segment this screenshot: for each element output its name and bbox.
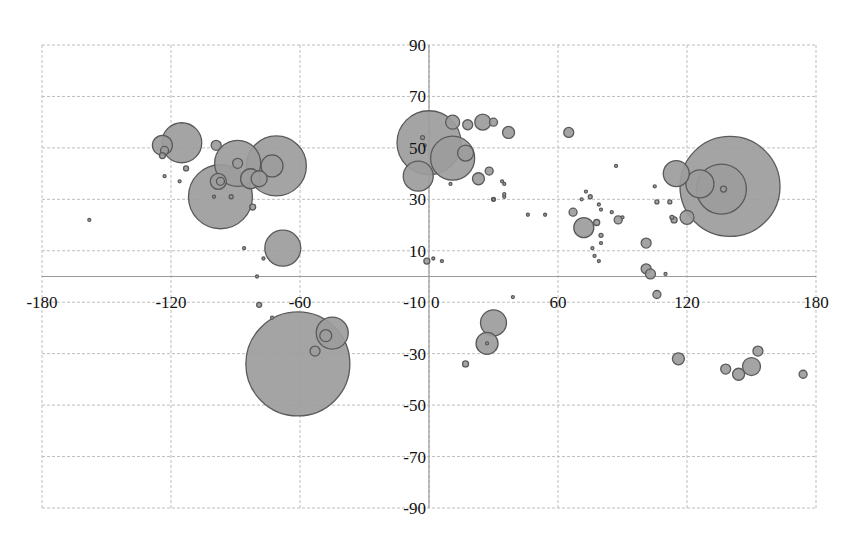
data-bubble xyxy=(663,161,689,187)
data-bubble xyxy=(486,342,489,345)
data-bubble xyxy=(597,203,600,206)
bubble-chart: 9070503010-10-30-50-70-90-180-120-600601… xyxy=(0,0,857,544)
data-bubble xyxy=(503,193,506,196)
data-bubble xyxy=(721,364,731,374)
data-bubble xyxy=(159,153,165,159)
data-bubble xyxy=(213,195,216,198)
data-bubble xyxy=(320,330,332,342)
data-bubble xyxy=(257,302,262,307)
data-bubble xyxy=(593,254,596,257)
data-bubble xyxy=(211,140,221,150)
data-bubble xyxy=(653,185,656,188)
data-bubble xyxy=(733,368,745,380)
data-bubble xyxy=(569,208,577,216)
data-bubble xyxy=(178,180,181,183)
data-bubble xyxy=(490,118,498,126)
data-bubble xyxy=(615,164,618,167)
data-bubble xyxy=(599,233,603,237)
data-bubble xyxy=(580,198,583,201)
data-bubble xyxy=(492,198,495,201)
data-bubble xyxy=(229,195,233,199)
data-bubble xyxy=(463,361,469,367)
y-tick-label: 50 xyxy=(409,139,426,158)
data-bubble xyxy=(481,310,507,336)
data-bubble xyxy=(564,127,574,137)
data-bubble xyxy=(753,346,763,356)
data-bubble xyxy=(686,170,714,198)
data-bubble xyxy=(432,257,435,260)
data-bubble xyxy=(449,182,452,185)
data-bubble xyxy=(501,180,504,183)
data-bubble xyxy=(216,177,224,185)
data-bubble xyxy=(721,186,727,192)
data-bubble xyxy=(256,275,259,278)
x-tick-label: 180 xyxy=(803,293,829,312)
y-tick-label: 30 xyxy=(409,190,426,209)
data-bubble xyxy=(458,145,474,161)
data-bubble xyxy=(265,230,301,266)
data-bubble xyxy=(670,215,674,219)
data-bubble xyxy=(621,216,624,219)
y-tick-label: -70 xyxy=(403,448,426,467)
x-tick-label: -180 xyxy=(26,293,57,312)
data-bubble xyxy=(743,358,761,376)
data-bubble xyxy=(594,219,600,225)
data-bubble xyxy=(310,346,320,356)
x-tick-label: -60 xyxy=(289,293,312,312)
data-bubble xyxy=(672,353,684,365)
data-bubble xyxy=(463,120,473,130)
data-bubble xyxy=(184,166,189,171)
data-bubble xyxy=(250,204,256,210)
data-bubble xyxy=(233,158,243,168)
data-bubble xyxy=(641,238,651,248)
y-tick-label: 70 xyxy=(409,87,426,106)
data-bubble xyxy=(511,296,514,299)
data-bubble xyxy=(88,218,91,221)
x-tick-label: 0 xyxy=(431,293,440,312)
data-bubble xyxy=(597,260,600,263)
data-bubble xyxy=(526,213,529,216)
data-bubble xyxy=(251,171,267,187)
data-bubble xyxy=(664,272,667,275)
data-bubble xyxy=(680,210,694,224)
data-bubble xyxy=(645,269,655,279)
data-bubble xyxy=(600,208,603,211)
data-bubble xyxy=(472,173,484,185)
data-bubble xyxy=(668,200,672,204)
data-bubble xyxy=(588,195,592,199)
bubble-series xyxy=(88,111,807,416)
data-bubble xyxy=(271,316,274,319)
data-bubble xyxy=(655,200,659,204)
data-bubble xyxy=(403,161,433,191)
data-bubble xyxy=(610,211,613,214)
data-bubble xyxy=(544,213,547,216)
data-bubble xyxy=(485,167,493,175)
x-tick-label: 60 xyxy=(550,293,567,312)
data-bubble xyxy=(440,260,443,263)
data-bubble xyxy=(243,247,246,250)
y-tick-label: -10 xyxy=(403,293,426,312)
data-bubble xyxy=(262,257,265,260)
data-bubble xyxy=(600,242,603,245)
data-bubble xyxy=(584,190,587,193)
x-tick-label: 120 xyxy=(674,293,700,312)
data-bubble xyxy=(799,370,807,378)
y-tick-label: 10 xyxy=(409,242,426,261)
data-bubble xyxy=(574,218,594,238)
data-bubble xyxy=(475,114,491,130)
data-bubble xyxy=(653,291,661,299)
data-bubble xyxy=(163,175,166,178)
y-tick-label: 90 xyxy=(409,36,426,55)
y-tick-label: -90 xyxy=(403,499,426,518)
data-bubble xyxy=(591,247,594,250)
data-bubble xyxy=(446,115,460,129)
x-tick-label: -120 xyxy=(155,293,186,312)
data-bubble xyxy=(503,126,515,138)
y-tick-label: -50 xyxy=(403,396,426,415)
y-tick-label: -30 xyxy=(403,345,426,364)
